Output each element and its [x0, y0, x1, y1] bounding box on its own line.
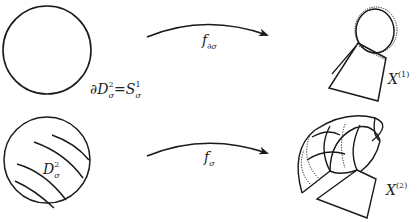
boundary-circle-label: ∂D2σ=S1σ	[90, 80, 141, 100]
two-skeleton-label: X(2)	[385, 181, 407, 198]
attaching-map-label-top: f∂σ	[201, 32, 217, 51]
two-skeleton-complex	[298, 116, 383, 218]
characteristic-map-label-bottom: fσ	[203, 149, 215, 168]
one-skeleton-complex	[329, 7, 397, 101]
boundary-circle	[3, 6, 91, 94]
disk-label: D2σ	[42, 160, 60, 180]
cell-attachment-diagram: ∂D2σ=S1σ f∂σ X(1) D2σ fσ	[0, 0, 418, 222]
one-skeleton-label: X(1)	[387, 70, 409, 87]
